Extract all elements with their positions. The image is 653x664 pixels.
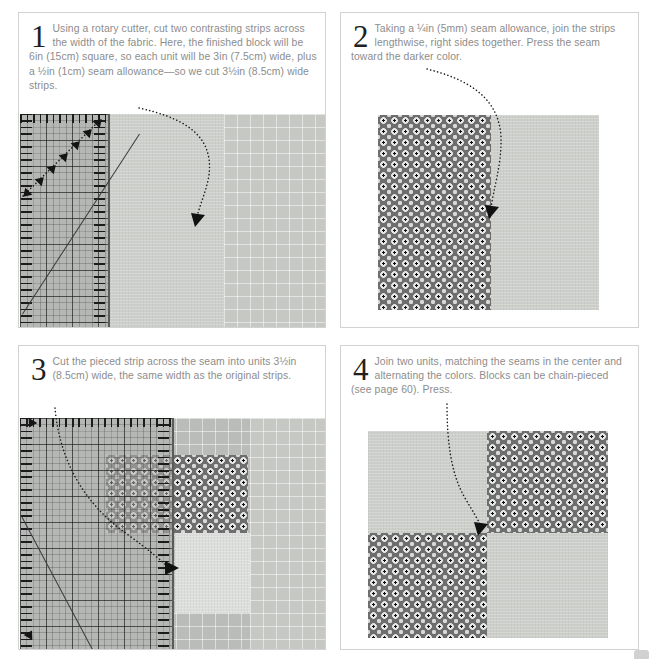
step-4-number: 4 [353, 356, 369, 383]
step-panel-3: 3 Cut the pieced strip across the seam i… [18, 345, 326, 650]
fabric-patterned-strip [378, 115, 491, 310]
step-panel-4: 4 Join two units, matching the seams in … [340, 345, 639, 650]
ruler-grid [20, 418, 172, 650]
cutting-mat-right [250, 418, 326, 650]
step-1-instruction: Using a rotary cutter, cut two contrasti… [29, 22, 317, 93]
step-4-photo [342, 418, 639, 650]
quilting-ruler [20, 114, 110, 328]
step-4-instruction: Join two units, matching the seams in th… [351, 355, 630, 398]
step-1-number: 1 [31, 23, 47, 50]
fabric-plain-strip [491, 115, 599, 310]
page-corner-artifact [634, 650, 649, 659]
step-panel-2: 2 Taking a ¼in (5mm) seam allowance, joi… [340, 12, 639, 328]
step-4-text-block: 4 Join two units, matching the seams in … [351, 355, 630, 398]
fabric-plain-unit [175, 533, 250, 613]
step-1-text-block: 1 Using a rotary cutter, cut two contras… [29, 22, 317, 93]
step-2-number: 2 [353, 23, 369, 50]
block-quadrant-top-left [368, 431, 487, 533]
step-3-number: 3 [31, 356, 47, 383]
step-panel-1: 1 Using a rotary cutter, cut two contras… [18, 12, 326, 328]
quilting-ruler [20, 418, 174, 650]
ruler-ticks-left [21, 114, 32, 328]
ruler-ticks-top [20, 418, 172, 427]
step-2-photo [342, 101, 639, 327]
instruction-page: 1 Using a rotary cutter, cut two contras… [0, 0, 653, 664]
fabric-light-strip [110, 114, 224, 328]
block-quadrant-bottom-right [487, 533, 608, 638]
step-3-photo [20, 418, 326, 650]
step-3-text-block: 3 Cut the pieced strip across the seam i… [29, 355, 317, 383]
step-2-instruction: Taking a ¼in (5mm) seam allowance, join … [351, 22, 630, 65]
step-2-text-block: 2 Taking a ¼in (5mm) seam allowance, joi… [351, 22, 630, 65]
ruler-ticks-right [94, 114, 105, 328]
block-quadrant-top-right [487, 431, 608, 533]
ruler-ticks-right [158, 418, 169, 650]
cutting-mat-right [224, 114, 326, 328]
step-3-instruction: Cut the pieced strip across the seam int… [29, 355, 317, 383]
step-1-photo [20, 114, 326, 328]
block-quadrant-bottom-left [368, 533, 487, 638]
